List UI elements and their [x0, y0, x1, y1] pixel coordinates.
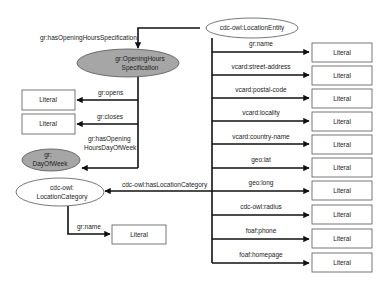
svg-text:Literal: Literal — [333, 187, 351, 194]
edge-has-opening-hours — [138, 28, 200, 48]
entity-property-labels: gr:name vcard:street-address vcard:posta… — [231, 40, 291, 259]
edge-label-has-opening-day-line2: HoursDayOfWeek — [84, 144, 137, 152]
edge-label-street-address: vcard:street-address — [231, 63, 291, 70]
svg-text:LocationCategory: LocationCategory — [37, 193, 89, 201]
node-opening-hours-specification: gr:OpeningHours Specification — [77, 49, 179, 77]
literal-node: Literal — [312, 112, 372, 131]
svg-text:gr:: gr: — [44, 151, 52, 159]
edge-label-locality: vcard:locality — [242, 109, 280, 117]
svg-text:gr:OpeningHours: gr:OpeningHours — [115, 55, 165, 63]
literal-node: Literal — [312, 66, 372, 85]
literal-node: Literal — [312, 43, 372, 62]
literal-node: Literal — [312, 89, 372, 108]
svg-text:Literal: Literal — [39, 96, 57, 103]
edge-label-homepage: foaf:homepage — [239, 251, 283, 259]
literal-node: Literal — [312, 158, 372, 177]
node-location-category: cdc-owl: LocationCategory — [16, 178, 104, 206]
svg-text:Literal: Literal — [333, 164, 351, 171]
svg-text:Literal: Literal — [333, 118, 351, 125]
svg-text:cdc-owl:: cdc-owl: — [50, 184, 74, 191]
literal-node: Literal — [312, 229, 372, 248]
edge-label-has-opening-day-line1: gr:hasOpening — [88, 135, 131, 143]
edge-label-has-opening-hours: gr:hasOpeningHoursSpecification — [40, 34, 137, 42]
node-location-entity: cdc-owl:LocationEntity — [206, 18, 298, 38]
literal-category-name: Literal — [112, 225, 166, 244]
svg-text:Literal: Literal — [333, 235, 351, 242]
rdf-schema-diagram: gr:hasOpeningHoursSpecification gr:opens… — [0, 0, 382, 290]
literal-node: Literal — [312, 135, 372, 154]
svg-text:Specification: Specification — [122, 64, 159, 72]
svg-text:Literal: Literal — [39, 120, 57, 127]
edge-label-geo-long: geo:long — [249, 179, 274, 187]
svg-text:Literal: Literal — [333, 141, 351, 148]
svg-text:Literal: Literal — [333, 259, 351, 266]
edge-label-phone: foaf:phone — [246, 227, 277, 235]
literal-closes: Literal — [22, 114, 75, 134]
literal-node: Literal — [312, 181, 372, 200]
literal-node: Literal — [312, 253, 372, 272]
edge-label-country-name: vcard:country-name — [232, 133, 290, 141]
edge-label-category-name: gr:name — [77, 223, 101, 231]
svg-text:Literal: Literal — [130, 231, 148, 238]
edge-label-postal-code: vcard:postal-code — [235, 86, 287, 94]
edge-label-has-location-category: cdc-owl:hasLocationCategory — [122, 181, 208, 189]
node-day-of-week: gr: DayOfWeek — [22, 149, 80, 171]
entity-property-literals: Literal Literal Literal Literal Literal … — [312, 43, 372, 272]
edge-label-radius: cdc-owl:radius — [240, 203, 282, 210]
svg-text:Literal: Literal — [333, 49, 351, 56]
edge-label-opens: gr:opens — [98, 89, 124, 97]
literal-opens: Literal — [22, 90, 75, 110]
edge-label-gr-name: gr:name — [249, 40, 273, 48]
edge-label-closes: gr:closes — [97, 113, 124, 121]
svg-text:Literal: Literal — [333, 95, 351, 102]
svg-text:cdc-owl:LocationEntity: cdc-owl:LocationEntity — [220, 24, 285, 32]
svg-text:Literal: Literal — [333, 72, 351, 79]
svg-text:DayOfWeek: DayOfWeek — [33, 160, 69, 168]
edge-label-geo-lat: geo:lat — [251, 156, 271, 164]
svg-text:Literal: Literal — [333, 211, 351, 218]
literal-node: Literal — [312, 205, 372, 224]
